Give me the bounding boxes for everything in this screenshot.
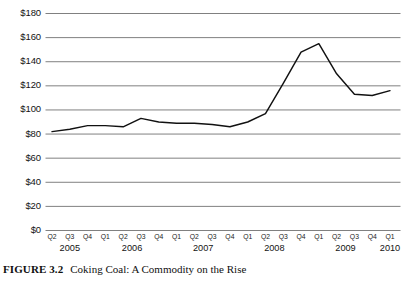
line-chart bbox=[0, 0, 411, 258]
x-axis-tick-label: Q4 bbox=[150, 233, 168, 240]
y-axis-tick-label: $140 bbox=[0, 55, 41, 66]
x-axis-tick-label: Q3 bbox=[61, 233, 79, 240]
x-axis-tick-label: Q2 bbox=[114, 233, 132, 240]
x-axis-tick-label: Q4 bbox=[79, 233, 97, 240]
x-axis-tick-label: Q3 bbox=[274, 233, 292, 240]
x-axis-tick-label: Q3 bbox=[203, 233, 221, 240]
y-axis-tick-label: $40 bbox=[0, 176, 41, 187]
x-axis-tick-label: Q1 bbox=[96, 233, 114, 240]
y-axis-tick-label: $60 bbox=[0, 152, 41, 163]
y-axis-tick-label: $20 bbox=[0, 200, 41, 211]
x-axis-tick-label: Q2 bbox=[43, 233, 61, 240]
x-axis-tick-label: Q1 bbox=[239, 233, 257, 240]
x-axis-tick-label: Q2 bbox=[256, 233, 274, 240]
x-axis-year-label: 2010 bbox=[370, 243, 410, 253]
x-axis-year-label: 2007 bbox=[183, 243, 223, 253]
x-axis-year-label: 2005 bbox=[50, 243, 90, 253]
figure-container: $0$20$40$60$80$100$120$140$160$180 Q2Q3Q… bbox=[0, 0, 411, 282]
chart-plot-area: $0$20$40$60$80$100$120$140$160$180 Q2Q3Q… bbox=[0, 0, 411, 258]
figure-caption-label: FIGURE 3.2 bbox=[3, 263, 63, 275]
x-axis-tick-label: Q2 bbox=[185, 233, 203, 240]
x-axis-tick-label: Q2 bbox=[328, 233, 346, 240]
x-axis-tick-label: Q4 bbox=[221, 233, 239, 240]
x-axis-tick-label: Q1 bbox=[168, 233, 186, 240]
x-axis-tick-label: Q3 bbox=[345, 233, 363, 240]
y-axis-tick-label: $120 bbox=[0, 79, 41, 90]
y-axis-tick-label: $160 bbox=[0, 31, 41, 42]
x-axis-tick-label: Q1 bbox=[310, 233, 328, 240]
y-axis-tick-label: $0 bbox=[0, 224, 41, 235]
x-axis-year-label: 2006 bbox=[112, 243, 152, 253]
x-axis-tick-label: Q4 bbox=[292, 233, 310, 240]
gridlines-group bbox=[46, 14, 401, 231]
y-axis-tick-label: $180 bbox=[0, 7, 41, 18]
y-axis-tick-label: $80 bbox=[0, 128, 41, 139]
figure-caption: FIGURE 3.2Coking Coal: A Commodity on th… bbox=[3, 263, 246, 275]
x-axis-tick-label: Q1 bbox=[381, 233, 399, 240]
data-series-line bbox=[52, 44, 390, 132]
y-axis-tick-label: $100 bbox=[0, 103, 41, 114]
x-axis-year-label: 2009 bbox=[326, 243, 366, 253]
x-axis-tick-label: Q4 bbox=[363, 233, 381, 240]
x-axis-tick-label: Q3 bbox=[132, 233, 150, 240]
figure-caption-text: Coking Coal: A Commodity on the Rise bbox=[70, 263, 246, 275]
x-axis-year-label: 2008 bbox=[254, 243, 294, 253]
